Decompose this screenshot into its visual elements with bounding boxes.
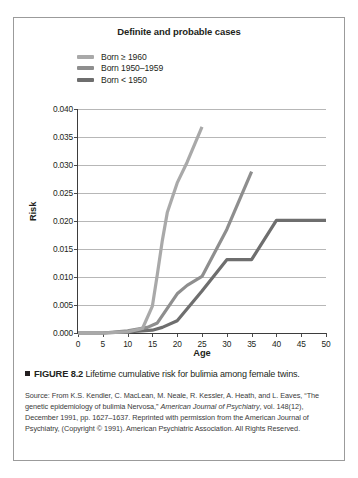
source-journal-name-part-1: American Journal xyxy=(160,402,216,411)
source-note: Source: From K.S. Kendler, C. MacLean, M… xyxy=(25,390,332,434)
y-axis-title: Risk xyxy=(28,202,38,221)
y-tick-label: 0.040 xyxy=(53,104,73,114)
series-lines xyxy=(78,109,326,334)
figure-card: Definite and probable cases Born ≥ 1960 … xyxy=(13,17,345,461)
legend-swatch-born-1960-or-later xyxy=(77,55,94,59)
figure-caption: FIGURE 8.2 Lifetime cumulative risk for … xyxy=(25,368,332,380)
figure-caption-text: Lifetime cumulative risk for bulimia amo… xyxy=(86,369,300,379)
legend-swatch-born-1950-1959 xyxy=(77,66,94,70)
caption-area: FIGURE 8.2 Lifetime cumulative risk for … xyxy=(14,368,344,434)
y-tick-label: 0.035 xyxy=(53,132,73,142)
y-tick-label: 0.000 xyxy=(53,328,73,338)
series-line xyxy=(78,127,202,333)
legend-item-born-before-1950: Born < 1950 xyxy=(77,74,163,86)
y-tick-label: 0.010 xyxy=(53,272,73,282)
legend-item-born-1960-or-later: Born ≥ 1960 xyxy=(77,51,163,63)
y-tick-label: 0.015 xyxy=(53,244,73,254)
legend-label-born-1960-or-later: Born ≥ 1960 xyxy=(101,52,147,62)
series-line xyxy=(78,172,252,333)
plot-area: 0.0000.0050.0100.0150.0200.0250.0300.035… xyxy=(78,109,326,333)
figure-number: FIGURE 8.2 xyxy=(34,369,83,379)
legend-swatch-born-before-1950 xyxy=(77,78,94,82)
source-journal-name-part-2: of Psychiatry xyxy=(218,402,259,411)
x-axis-title: Age xyxy=(78,348,326,358)
chart-title: Definite and probable cases xyxy=(14,26,344,37)
source-line-5: American Psychiatric Association. All Ri… xyxy=(126,424,300,433)
y-tick-label: 0.025 xyxy=(53,188,73,198)
legend-label-born-before-1950: Born < 1950 xyxy=(101,75,147,85)
legend-item-born-1950-1959: Born 1950–1959 xyxy=(77,63,163,75)
figure-marker-square xyxy=(25,371,30,376)
chart-block: Definite and probable cases Born ≥ 1960 … xyxy=(14,18,344,366)
y-tick-label: 0.030 xyxy=(53,160,73,170)
y-tick-label: 0.005 xyxy=(53,300,73,310)
chart-legend: Born ≥ 1960 Born 1950–1959 Born < 1950 xyxy=(77,51,163,86)
x-tick-mark xyxy=(326,333,327,337)
plot-inner: 0.0000.0050.0100.0150.0200.0250.0300.035… xyxy=(78,109,326,333)
source-line-1: Source: From K.S. Kendler, C. MacLean, M… xyxy=(25,391,256,400)
legend-label-born-1950-1959: Born 1950–1959 xyxy=(101,63,163,73)
y-tick-label: 0.020 xyxy=(53,216,73,226)
